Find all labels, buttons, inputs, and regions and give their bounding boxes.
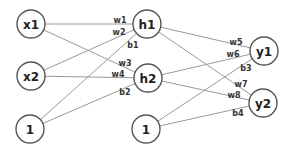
edge-label-b4: b4 [232, 109, 244, 118]
node-label: h1 [139, 18, 156, 32]
edge-label-w7: w7 [235, 80, 248, 89]
node-x1: x1 [17, 10, 45, 38]
node-h2: h2 [134, 64, 162, 92]
edge-label-b3: b3 [240, 64, 251, 73]
node-y2: y2 [249, 89, 277, 117]
node-label: x1 [23, 18, 39, 32]
node-y1: y1 [250, 37, 278, 65]
edge-label-w3: w3 [119, 59, 132, 68]
network-svg: w1w2b1w3w4b2w5w6b3w7w8b4 x1x21h1h21y1y2 [0, 0, 293, 152]
edge-label-w4: w4 [112, 70, 125, 79]
node-label: 1 [142, 123, 150, 137]
node-h1: h1 [133, 10, 161, 38]
node-label: y1 [256, 45, 272, 59]
node-label: x2 [23, 70, 39, 84]
edge-label-b2: b2 [119, 88, 130, 97]
edge-label-w6: w6 [227, 50, 240, 59]
node-label: y2 [255, 97, 271, 111]
node-b_in: 1 [16, 115, 44, 143]
edge-label-w1: w1 [114, 16, 127, 25]
node-label: h2 [140, 72, 157, 86]
edge-label-b1: b1 [127, 41, 139, 50]
node-x2: x2 [17, 62, 45, 90]
edge-label-w8: w8 [228, 91, 241, 100]
node-b_hid: 1 [132, 115, 160, 143]
edge-label-w2: w2 [113, 28, 126, 37]
neural-network-diagram: w1w2b1w3w4b2w5w6b3w7w8b4 x1x21h1h21y1y2 [0, 0, 293, 152]
node-label: 1 [26, 123, 34, 137]
edge-label-w5: w5 [230, 38, 243, 47]
